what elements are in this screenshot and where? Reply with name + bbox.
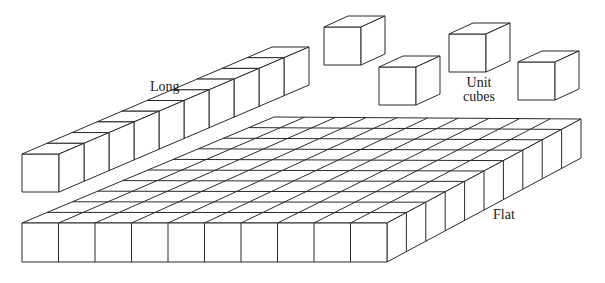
blocks-drawing [0,0,605,283]
unit-cube-4-front [518,62,555,100]
unit-cubes-label: Unit cubes [454,76,504,104]
flat-label: Flat [493,208,515,222]
long-label: Long [150,80,180,94]
unit-cubes-group [324,16,579,105]
long-cube-front [22,154,59,192]
unit-cube-2-front [379,67,416,105]
base-ten-blocks-figure: Long Unit cubes Flat [0,0,605,283]
unit-cube-3-front [449,34,486,72]
unit-cube-1-front [324,27,361,65]
